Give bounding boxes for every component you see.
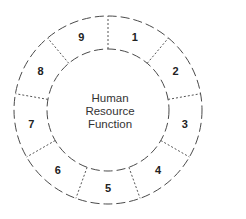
segment-divider [168, 94, 201, 100]
center-label-line-2: Resource [85, 105, 134, 117]
segment-label-7: 7 [28, 118, 34, 130]
segment-divider [15, 94, 48, 100]
segment-divider [147, 38, 168, 63]
segment-label-9: 9 [78, 31, 84, 43]
segment-label-2: 2 [172, 65, 178, 77]
segment-label-3: 3 [182, 118, 188, 130]
segment-divider [76, 167, 87, 198]
hr-function-ring-diagram: 123456789 Human Resource Function [0, 0, 246, 219]
segment-label-5: 5 [105, 182, 111, 194]
segment-label-6: 6 [55, 164, 61, 176]
center-label-line-1: Human [91, 92, 128, 104]
segment-divider [129, 167, 140, 198]
segment-divider [161, 141, 190, 158]
segment-divider [48, 38, 69, 63]
segment-label-4: 4 [155, 164, 162, 176]
center-label-line-3: Function [88, 118, 132, 130]
segment-label-8: 8 [37, 65, 43, 77]
segment-label-1: 1 [132, 31, 138, 43]
segment-divider [27, 141, 56, 158]
center-label: Human Resource Function [85, 92, 134, 130]
